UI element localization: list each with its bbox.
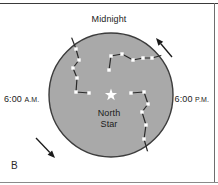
left-constellation-star-5	[74, 90, 77, 93]
lower-left-rotation-arrow	[36, 138, 55, 158]
label-6pm-time: 6:00	[175, 94, 193, 104]
left-constellation-star-4	[75, 76, 78, 79]
lower-right-constellation-star-5	[142, 137, 145, 140]
night-sky-diagram	[0, 0, 218, 185]
label-6pm-meridiem: P.M.	[195, 96, 209, 103]
label-north-star-line1: North	[0, 108, 218, 119]
left-constellation-star-3	[71, 66, 74, 69]
label-6am: 6:00 A.M.	[4, 94, 39, 104]
lower-left-rotation-arrow-shaft	[36, 138, 50, 153]
left-constellation-star-6	[87, 91, 90, 94]
upper-right-constellation-star-3	[131, 58, 134, 61]
lower-right-constellation-star-1	[142, 90, 145, 93]
left-constellation-star-2	[77, 58, 80, 61]
lower-right-constellation-star-0	[129, 91, 132, 94]
upper-right-constellation-star-4	[141, 56, 144, 59]
lower-right-constellation-star-2	[146, 102, 149, 105]
lower-right-constellation-star-6	[146, 151, 149, 154]
label-midnight: Midnight	[0, 14, 218, 24]
label-6am-meridiem: A.M.	[25, 96, 40, 103]
left-constellation-star-1	[74, 47, 77, 50]
label-6pm: 6:00 P.M.	[175, 94, 209, 104]
left-constellation-star-0	[69, 34, 72, 37]
upper-right-constellation-star-5	[150, 56, 153, 59]
label-north-star-line2: Star	[0, 119, 218, 130]
upper-right-constellation-star-1	[109, 54, 112, 57]
upper-right-constellation-star-6	[161, 53, 164, 56]
panel-label-b: B	[11, 160, 18, 172]
upper-right-constellation-star-0	[107, 68, 110, 71]
star-trail-figure: Midnight 6:00 A.M. 6:00 P.M. North Star …	[0, 0, 218, 185]
upper-right-constellation-star-2	[120, 52, 123, 55]
label-north-star: North Star	[0, 108, 218, 130]
label-6am-time: 6:00	[4, 94, 22, 104]
